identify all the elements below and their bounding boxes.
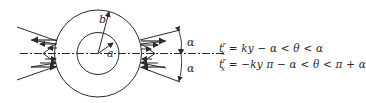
angle-arc-top: [179, 31, 182, 54]
eq2-sub: x: [221, 65, 225, 73]
eq1-sub: x: [221, 49, 225, 57]
left-wedge-bottom-line: [17, 66, 57, 80]
right-wedge-bottom-line: [140, 67, 180, 82]
eq2-sup: r: [222, 57, 226, 65]
equation-1: trx = ky − α < θ < α: [219, 41, 323, 57]
angle-arc-bottom: [179, 54, 182, 82]
right-wedge-top-line: [140, 30, 180, 40]
left-wedge-top-line: [17, 27, 57, 41]
eq1-sup: r: [222, 41, 226, 49]
angle-label-bottom: α: [187, 62, 195, 75]
inner-radius-label: a: [107, 47, 114, 60]
outer-radius-label: b: [99, 13, 106, 26]
eq2-rhs: = −ky π − α < θ < π + α: [229, 58, 366, 70]
equation-2: trx = −ky π − α < θ < π + α: [219, 57, 366, 73]
angle-label-top: α: [187, 36, 195, 49]
eq1-rhs: = ky − α < θ < α: [229, 42, 324, 54]
